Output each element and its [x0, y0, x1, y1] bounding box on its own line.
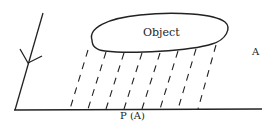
slanted-axis — [15, 13, 43, 110]
projection-label: P (A) — [120, 110, 145, 121]
object-label: Object — [143, 26, 180, 39]
projection-rays — [70, 45, 216, 109]
plane-label: A — [252, 46, 259, 57]
